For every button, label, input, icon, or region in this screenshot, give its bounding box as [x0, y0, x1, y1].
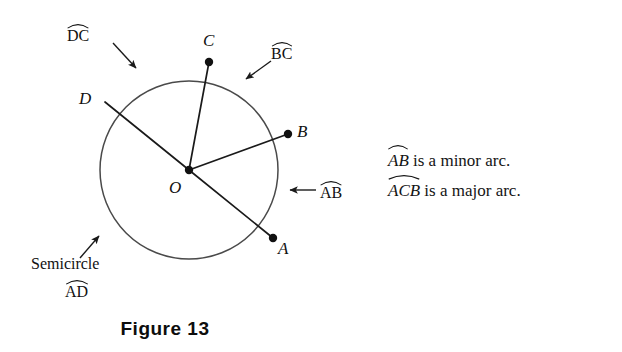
explanation-arc-acb: ACB	[388, 179, 420, 203]
explanation-major-text: is a major arc.	[420, 181, 521, 200]
figure-13: A B C D O DC BC AB Semicircle	[0, 0, 622, 352]
explanation-line-minor: AB is a minor arc.	[388, 143, 614, 173]
point-label-c: C	[203, 32, 214, 49]
explanation-minor-text: is a minor arc.	[409, 151, 511, 170]
point-dot-a	[269, 234, 277, 242]
callout-arrows-group	[80, 43, 316, 258]
arc-label-ab: AB	[320, 179, 342, 201]
point-dot-o	[185, 166, 193, 174]
semicircle-arc-text: AD	[65, 284, 88, 300]
arc-label-dc-text: DC	[67, 28, 89, 44]
semicircle-word: Semicircle	[31, 256, 99, 272]
arrow-bc	[246, 61, 271, 79]
figure-caption: Figure 13	[0, 318, 330, 340]
radius-oc	[189, 62, 209, 170]
point-label-o: O	[169, 179, 181, 196]
semicircle-arc-label: AD	[65, 278, 88, 300]
explanation-arc-ab: AB	[388, 149, 409, 173]
arc-explanation-block: AB is a minor arc. ACB is a major arc.	[388, 143, 614, 203]
radius-od	[105, 102, 189, 170]
point-label-b: B	[297, 123, 307, 140]
point-label-a: A	[278, 240, 288, 257]
radii-group	[105, 62, 288, 238]
point-dot-b	[284, 130, 292, 138]
point-dot-c	[205, 58, 213, 66]
arrow-dc	[113, 43, 136, 68]
point-label-d: D	[79, 90, 91, 107]
explanation-line-major: ACB is a major arc.	[388, 173, 614, 203]
arc-label-dc: DC	[67, 22, 89, 44]
arc-label-ab-text: AB	[320, 185, 342, 201]
arc-label-bc: BC	[271, 40, 292, 62]
radius-oa	[189, 170, 273, 238]
arc-label-bc-text: BC	[271, 46, 292, 62]
radius-ob	[189, 134, 288, 170]
